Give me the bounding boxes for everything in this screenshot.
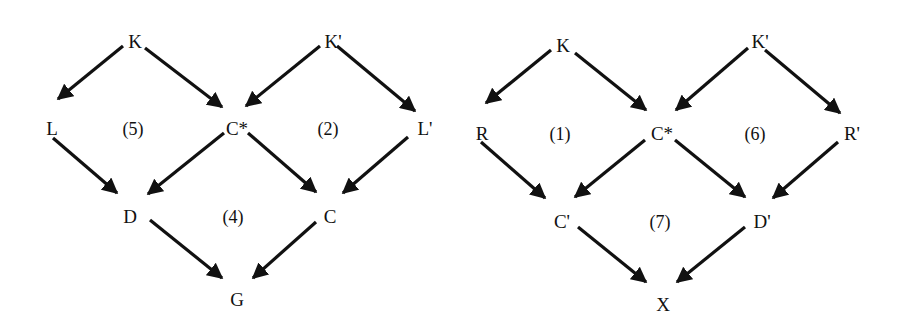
region-label: (7) [650,212,671,233]
arrow-kp-to-rp [765,50,840,113]
arrow-rp-to-dp [773,142,838,198]
arrow-kp-to-lp [337,46,415,111]
arrow-k-to-r [486,50,551,103]
region-label: (5) [123,119,144,140]
node-cs: C* [651,123,673,144]
arrow-c-to-g [253,222,316,278]
arrow-k-to-cs [575,53,646,110]
node-x: X [656,294,670,315]
node-dp: D' [753,211,770,232]
node-k: K [128,31,142,52]
node-r: R [476,123,489,144]
node-k: K [556,35,570,56]
arrow-r-to-cp [481,142,545,198]
node-kp: K' [324,31,341,52]
region-label: (4) [223,207,244,228]
arrow-cs-to-c [248,133,316,192]
arrow-cs-to-d [148,133,224,194]
arrow-cs-to-cp [575,140,645,197]
arrow-kp-to-cs [246,46,320,106]
arrow-l-to-d [53,138,117,193]
node-g: G [230,289,244,310]
arrow-k-to-cs [145,48,222,107]
region-label: (2) [318,119,339,140]
arrow-dp-to-x [677,227,745,282]
node-l: L [46,118,58,139]
diagram-canvas: KK'LC*L'DCG(5)(2)(4) KK'RC*R'C'D'X(1)(6)… [0,0,900,328]
arrow-lp-to-c [343,137,408,193]
node-rp: R' [844,123,860,144]
left-diagram: KK'LC*L'DCG(5)(2)(4) [46,31,432,310]
node-cs: C* [226,118,248,139]
node-lp: L' [417,118,432,139]
node-cp: C' [554,211,570,232]
arrow-kp-to-cs [676,48,748,110]
node-c: C [324,206,337,227]
node-d: D [123,206,137,227]
arrow-cs-to-dp [675,140,745,197]
arrow-d-to-g [150,220,222,278]
arrow-k-to-l [58,46,123,99]
node-kp: K' [751,31,768,52]
arrow-cp-to-x [578,227,646,282]
region-label: (6) [745,124,766,145]
right-diagram: KK'RC*R'C'D'X(1)(6)(7) [476,31,860,315]
region-label: (1) [550,124,571,145]
